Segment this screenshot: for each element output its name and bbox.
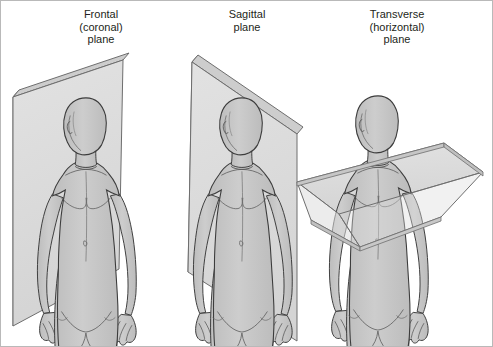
planes-illustration <box>1 1 493 347</box>
frontal-plane-panel <box>13 53 136 347</box>
anatomical-planes-figure: Frontal (coronal) plane Sagittal plane T… <box>0 0 493 347</box>
sagittal-plane-panel <box>188 55 303 347</box>
transverse-plane-panel <box>297 96 483 347</box>
